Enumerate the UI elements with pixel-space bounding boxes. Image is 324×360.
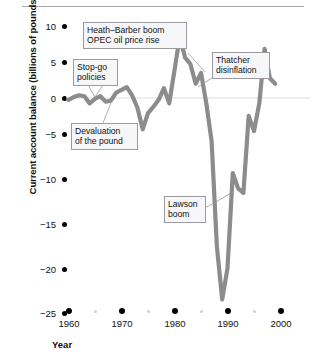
callout-devaluation-of-the-pound: Devaluation of the pound (71, 123, 138, 150)
callout-lawson-boom: Lawson boom (164, 196, 206, 223)
chart-figure: Current account balance (billions of pou… (0, 0, 324, 360)
plot-area (0, 0, 324, 360)
callout-stop-go-policies: Stop-go policies (73, 59, 118, 86)
callout-thatcher-disinflation: Thatcher disinflation (212, 52, 270, 79)
leader-lawson (205, 192, 233, 208)
leader-stop-go (88, 85, 95, 97)
callout-heath-barber-boom: Heath–Barber boom OPEC oil price rise (83, 22, 187, 49)
leader-devaluation (103, 100, 112, 123)
